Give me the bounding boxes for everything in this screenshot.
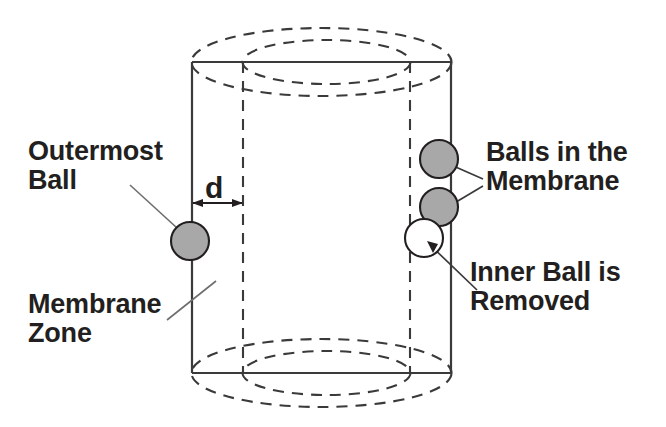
label-inner-ball-is-removed: Inner Ball is Removed [470, 258, 620, 316]
label-dimension-d: d [205, 172, 223, 204]
label-membrane-zone: Membrane Zone [28, 290, 161, 348]
outermost-ball [171, 222, 209, 260]
label-balls-in-the-membrane: Balls in the Membrane [486, 138, 628, 196]
dimension-arrowhead-left [192, 199, 203, 207]
label-outermost-ball: Outermost Ball [28, 137, 163, 195]
inner-ball-removed [405, 219, 443, 257]
dimension-arrowhead-right [232, 199, 243, 207]
diagram-canvas [0, 0, 666, 427]
membrane-ball-upper [420, 140, 458, 178]
membrane-ball-diagram: Outermost Ball Membrane Zone Balls in th… [0, 0, 666, 427]
